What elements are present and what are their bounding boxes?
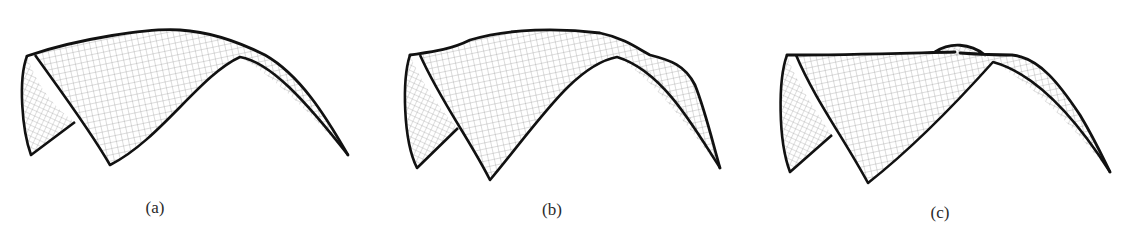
panel-b-label: (b) xyxy=(542,200,562,220)
panel-b-surface xyxy=(405,30,720,180)
panel-c-surface xyxy=(781,45,1110,183)
panel-a-surface xyxy=(22,30,348,165)
figure-canvas xyxy=(0,0,1134,236)
panel-a-label: (a) xyxy=(146,198,165,218)
panel-c-label: (c) xyxy=(931,203,950,223)
